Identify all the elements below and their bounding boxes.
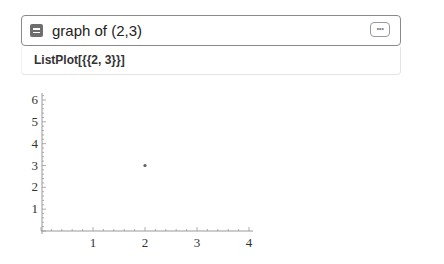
y-tick-label: 5	[32, 114, 39, 129]
y-tick-label: 3	[32, 158, 39, 173]
x-tick-label: 3	[194, 235, 201, 250]
x-tick-label: 4	[246, 235, 253, 250]
y-tick-label: 6	[32, 92, 39, 107]
x-tick-label: 1	[90, 235, 97, 250]
x-tick-label: 2	[142, 235, 149, 250]
data-point	[143, 164, 146, 167]
y-tick-label: 1	[32, 201, 39, 216]
y-tick-label: 4	[32, 136, 39, 151]
axes: 1234123456	[32, 92, 254, 250]
y-tick-label: 2	[32, 179, 39, 194]
scatter-plot: 1234123456	[0, 0, 444, 264]
